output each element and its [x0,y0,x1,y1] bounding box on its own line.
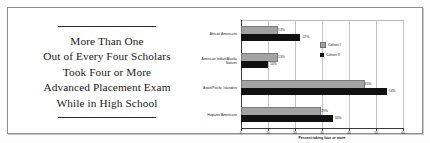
legend-label: Cohort II [326,53,340,57]
pull-quote-line: While in High School [43,96,170,112]
gridline [403,20,404,128]
category-label: Hispanic Americans [193,112,237,116]
figure-frame: More Than One Out of Every Four Scholars… [7,7,423,134]
bar-value-label: 10% [270,62,277,66]
gridline [349,20,350,128]
legend-swatch-icon [320,53,324,57]
bar-chart: 0102030405060 13%22%13%10%45%54%29%34% A… [198,16,428,142]
pull-quote-line: More Than One [43,34,170,50]
category-label: African Americans [193,31,237,35]
x-tick-label: 40 [347,131,351,135]
x-tick-label: 30 [320,131,324,135]
x-tick-label: 20 [293,131,297,135]
legend-item-cohort-1: Cohort I [320,42,341,48]
bar-value-label: 29% [321,109,328,113]
pull-quote-line: Out of Every Four Scholars [43,49,170,65]
bar [241,61,268,68]
chart-plot-container: 0102030405060 13%22%13%10%45%54%29%34% A… [198,16,428,142]
bar-value-label: 54% [389,89,396,93]
bar-value-label: 13% [278,28,285,32]
x-tick-label: 60 [401,131,405,135]
x-tick-label: 10 [266,131,270,135]
pull-quote-line: Advanced Placement Exam [43,80,170,96]
legend-swatch-icon [320,42,326,48]
bar [241,115,333,122]
pull-quote-text: More Than One Out of Every Four Scholars… [43,27,170,118]
bar-value-label: 13% [278,55,285,59]
category-label: American Indian/Alaska Natives [193,56,237,64]
x-axis-label: Percent taking four or more [241,136,403,140]
gridline [376,20,377,128]
chart-legend: Cohort I Cohort II [320,42,341,62]
pull-quote-bottom-rule [58,117,156,118]
legend-label: Cohort I [328,43,341,47]
bar-value-label: 45% [365,82,372,86]
x-tick-label: 50 [374,131,378,135]
pull-quote-block: More Than One Out of Every Four Scholars… [18,16,196,128]
bar-value-label: 34% [335,116,342,120]
bar [241,88,387,95]
category-label: Asian/Pacific Islanders [193,85,237,89]
pull-quote-line: Took Four or More [43,65,170,81]
page-root: More Than One Out of Every Four Scholars… [0,0,430,143]
bar-value-label: 22% [302,35,309,39]
bar [241,34,300,41]
legend-item-cohort-2: Cohort II [320,53,341,57]
x-tick-label: 0 [240,131,242,135]
